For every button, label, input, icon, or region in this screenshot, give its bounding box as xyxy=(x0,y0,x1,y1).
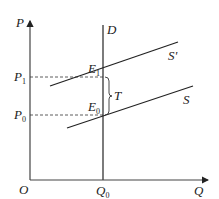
p0-label: P0 xyxy=(13,107,26,124)
tax-brace xyxy=(105,77,112,115)
e0-label: E0 xyxy=(87,99,100,116)
q0-label: Q0 xyxy=(96,183,109,199)
p1-label: P1 xyxy=(13,69,26,86)
supply-demand-diagram: P Q O P1 P0 Q0 D S' S E1 E0 T xyxy=(0,0,219,199)
original-supply-label: S xyxy=(183,92,190,107)
tax-label: T xyxy=(114,88,122,103)
demand-label: D xyxy=(106,22,117,37)
shifted-supply-curve xyxy=(50,42,178,86)
x-axis-label: Q xyxy=(194,183,204,198)
e1-label: E1 xyxy=(87,61,100,78)
y-axis-label: P xyxy=(15,15,24,30)
shifted-supply-label: S' xyxy=(168,48,178,63)
original-supply-curve xyxy=(67,86,193,128)
origin-label: O xyxy=(19,182,29,197)
